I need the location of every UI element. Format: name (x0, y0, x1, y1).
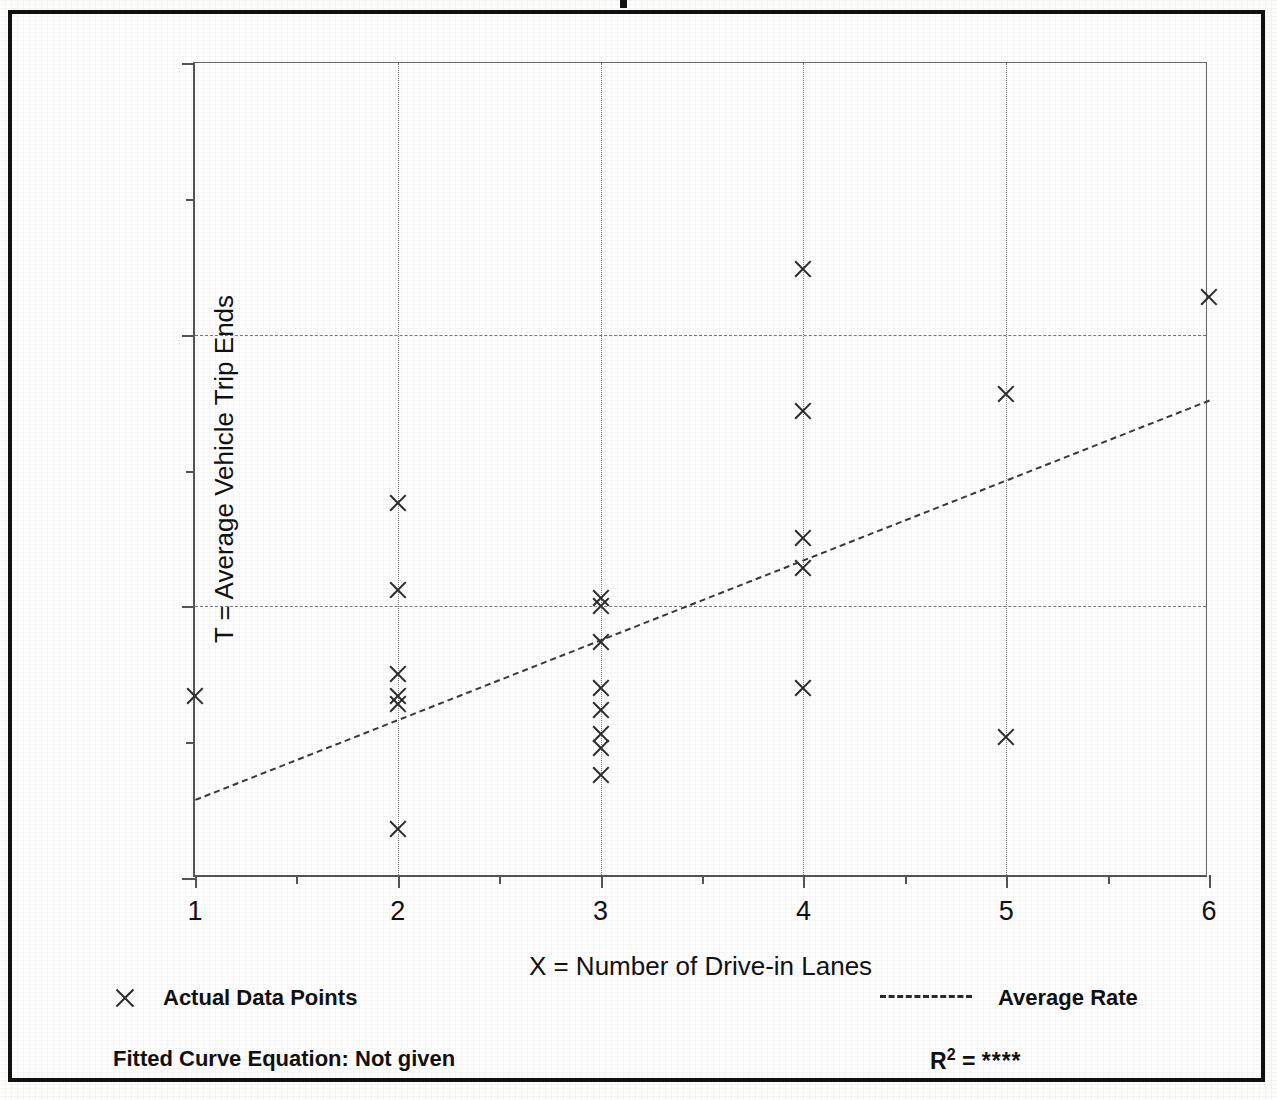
r-squared-stars: **** (982, 1048, 1022, 1074)
x-axis-tick-label: 3 (593, 896, 608, 927)
y-axis-minor-tick (186, 742, 195, 744)
gridline-vertical (601, 63, 602, 875)
y-axis-minor-tick (186, 471, 195, 473)
x-axis-tick-label: 6 (1201, 896, 1216, 927)
average-rate-trendline (195, 400, 1210, 801)
legend-item-average-rate: Average Rate (880, 985, 1138, 1011)
x-axis-title: X = Number of Drive-in Lanes (195, 951, 1206, 982)
x-axis-tick-label: 5 (999, 896, 1014, 927)
scatter-chart: T = Average Vehicle Trip Ends X = Number… (0, 0, 1277, 1100)
legend-label-data-points: Actual Data Points (163, 985, 357, 1011)
plot-area: T = Average Vehicle Trip Ends X = Number… (193, 62, 1207, 877)
x-axis-minor-tick (702, 875, 704, 884)
x-axis-tick-label: 2 (390, 896, 405, 927)
dashed-line-icon (880, 995, 972, 998)
legend-label-average-rate: Average Rate (998, 985, 1138, 1011)
x-axis-tick (1209, 875, 1211, 888)
gridline-vertical (1006, 63, 1007, 875)
y-axis-tick (182, 878, 195, 880)
x-axis-tick (601, 875, 603, 888)
legend-row-secondary: Fitted Curve Equation: Not given R2 = **… (0, 1046, 1277, 1086)
gridline-vertical (803, 63, 804, 875)
gridline-horizontal (195, 335, 1206, 336)
r-squared-exponent: 2 (947, 1046, 956, 1063)
r-squared-value: R2 = **** (930, 1046, 1022, 1075)
r-squared-symbol: R (930, 1048, 947, 1074)
data-point-marker (1198, 286, 1220, 308)
legend-item-data-points: Actual Data Points (113, 985, 357, 1011)
x-axis-tick (803, 875, 805, 888)
y-axis-minor-tick (186, 199, 195, 201)
x-axis-tick (195, 875, 197, 888)
data-point-marker (184, 685, 206, 707)
x-axis-tick-label: 1 (187, 896, 202, 927)
x-axis-tick (1006, 875, 1008, 888)
x-axis-minor-tick (1108, 875, 1110, 884)
x-axis-minor-tick (905, 875, 907, 884)
x-axis-tick (398, 875, 400, 888)
y-axis-tick (182, 63, 195, 65)
r-squared-equals: = (956, 1048, 982, 1074)
x-axis-minor-tick (499, 875, 501, 884)
y-axis-tick (182, 335, 195, 337)
x-marker-icon (113, 986, 137, 1010)
gridline-vertical (398, 63, 399, 875)
fitted-curve-equation: Fitted Curve Equation: Not given (113, 1046, 455, 1072)
legend-row-primary: Actual Data Points Average Rate (0, 985, 1277, 1025)
y-axis-title: T = Average Vehicle Trip Ends (209, 295, 240, 643)
x-axis-minor-tick (296, 875, 298, 884)
page-root: T = Average Vehicle Trip Ends X = Number… (0, 0, 1277, 1100)
y-axis-tick (182, 606, 195, 608)
gridline-horizontal (195, 606, 1206, 607)
x-axis-tick-label: 4 (796, 896, 811, 927)
